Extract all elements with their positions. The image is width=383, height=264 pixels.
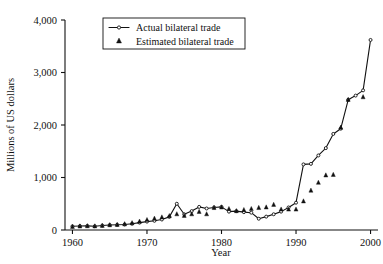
x-axis-tick-group: 19601970198019902000: [62, 230, 381, 248]
data-point-estimated: [205, 212, 209, 216]
x-tick-label: 1970: [136, 237, 157, 248]
data-point-estimated: [339, 125, 343, 129]
data-point-estimated: [264, 205, 268, 209]
data-point-estimated: [309, 188, 313, 192]
data-point-estimated: [160, 215, 164, 219]
chart-canvas: 01,0002,0003,0004,000 196019701980199020…: [0, 0, 383, 264]
data-point-actual: [198, 205, 201, 208]
data-point-estimated: [272, 202, 276, 206]
data-point-actual: [295, 201, 298, 204]
data-point-estimated: [152, 216, 156, 220]
data-point-actual: [324, 147, 327, 150]
data-point-estimated: [257, 205, 261, 209]
data-point-actual: [362, 89, 365, 92]
data-point-estimated: [249, 206, 253, 210]
legend-item-label: Actual bilateral trade: [136, 22, 221, 33]
data-point-estimated: [175, 212, 179, 216]
x-tick-label: 1960: [62, 237, 83, 248]
y-tick-label: 3,000: [33, 67, 57, 78]
data-point-actual: [205, 207, 208, 210]
data-point-estimated: [227, 206, 231, 210]
y-tick-label: 0: [52, 225, 57, 236]
data-point-estimated: [316, 180, 320, 184]
data-point-actual: [257, 217, 260, 220]
data-point-actual: [317, 154, 320, 157]
chart-legend: Actual bilateral tradeEstimated bilatera…: [103, 18, 245, 49]
data-point-actual: [265, 215, 268, 218]
data-point-estimated: [197, 209, 201, 213]
y-axis-tick-group: 01,0002,0003,0004,000: [33, 15, 65, 236]
data-point-estimated: [331, 172, 335, 176]
y-tick-label: 2,000: [33, 120, 57, 131]
data-point-estimated: [242, 207, 246, 211]
data-point-actual: [175, 202, 178, 205]
data-point-estimated: [294, 207, 298, 211]
data-point-estimated: [301, 199, 305, 203]
y-axis-title: Millions of US dollars: [5, 78, 16, 172]
data-point-actual: [250, 211, 253, 214]
data-point-actual: [369, 38, 372, 41]
data-point-estimated: [361, 95, 365, 99]
x-axis-title: Year: [211, 247, 231, 258]
x-tick-label: 1990: [286, 237, 307, 248]
data-point-actual: [354, 94, 357, 97]
data-point-estimated: [138, 219, 142, 223]
data-point-estimated: [145, 217, 149, 221]
legend-item-label: Estimated bilateral trade: [136, 36, 234, 47]
y-tick-label: 4,000: [33, 15, 57, 26]
data-point-estimated: [279, 207, 283, 211]
data-point-actual: [332, 132, 335, 135]
data-point-estimated: [324, 173, 328, 177]
series-line-actual: [72, 40, 370, 226]
chart-figure: 01,0002,0003,0004,000 196019701980199020…: [0, 0, 383, 264]
data-series-group: [70, 38, 372, 228]
data-point-actual: [272, 213, 275, 216]
y-tick-label: 1,000: [33, 172, 57, 183]
legend-marker-circle-icon: [117, 26, 120, 29]
data-point-actual: [309, 162, 312, 165]
x-tick-label: 2000: [360, 237, 381, 248]
data-point-actual: [302, 163, 305, 166]
